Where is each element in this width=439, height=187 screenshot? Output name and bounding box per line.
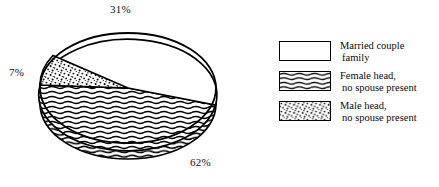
legend-label-line1: Female head, xyxy=(340,70,396,81)
pie-chart-graphic xyxy=(0,0,270,187)
legend-item-married-couple: Married couple family xyxy=(279,40,437,64)
pie-label-62-percent: 62% xyxy=(190,156,211,168)
pie-top-face xyxy=(39,33,217,151)
legend-label-female-head: Female head, no spouse present xyxy=(340,70,417,94)
pie-label-7-percent: 7% xyxy=(9,66,24,78)
legend-swatch-blank-icon xyxy=(279,41,331,61)
legend-label-married-couple: Married couple family xyxy=(340,40,404,64)
legend-label-line2: no spouse present xyxy=(340,112,417,124)
legend-label-line2: no spouse present xyxy=(340,82,417,94)
pie-chart-figure: 31% 7% 62% Married couple family xyxy=(0,0,439,187)
chart-area: 31% 7% 62% xyxy=(0,0,270,187)
legend-item-female-head: Female head, no spouse present xyxy=(279,70,437,94)
legend-swatch-wavy-icon xyxy=(279,71,331,91)
legend-label-line1: Married couple xyxy=(340,40,404,51)
pie-label-31-percent: 31% xyxy=(110,3,131,15)
legend-label-male-head: Male head, no spouse present xyxy=(340,100,417,124)
legend-label-line2: family xyxy=(340,52,404,64)
legend-item-male-head: Male head, no spouse present xyxy=(279,100,437,124)
legend-label-line1: Male head, xyxy=(340,100,387,111)
legend-swatch-stipple-icon xyxy=(279,101,331,121)
legend: Married couple family Female head, no sp… xyxy=(279,40,437,130)
